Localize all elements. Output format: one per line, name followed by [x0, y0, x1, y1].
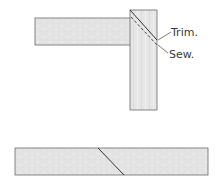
trim-leader — [158, 32, 171, 40]
horizontal-strip — [35, 18, 131, 45]
sew-leader — [158, 45, 168, 53]
binding-diagram: Trim. Sew. — [0, 0, 218, 184]
sew-label: Sew. — [169, 48, 194, 61]
trim-label: Trim. — [170, 26, 198, 39]
joined-strip — [15, 148, 208, 175]
